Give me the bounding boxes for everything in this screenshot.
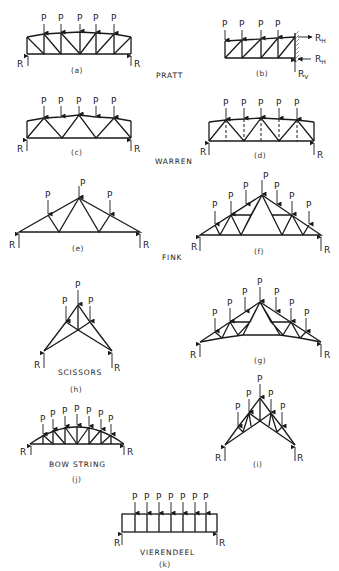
svg-text:R: R (200, 147, 206, 157)
svg-text:P: P (242, 287, 248, 297)
svg-text:P: P (258, 19, 264, 29)
svg-text:P: P (58, 96, 64, 106)
svg-text:P: P (274, 287, 280, 297)
svg-text:P: P (274, 181, 280, 191)
labels-b: P P P P RH RH RV (b) (222, 19, 326, 80)
svg-text:P: P (243, 181, 249, 191)
svg-text:P: P (289, 191, 295, 201)
truss-k-vierendeel (122, 502, 217, 545)
svg-text:P: P (77, 13, 83, 23)
svg-text:P: P (75, 280, 81, 290)
svg-text:RH: RH (315, 33, 326, 44)
svg-text:P: P (294, 98, 300, 108)
svg-text:P: P (93, 13, 99, 23)
truss-f-fink-compound (200, 180, 321, 251)
svg-text:P: P (107, 190, 113, 200)
svg-text:R: R (317, 150, 323, 160)
caption-e: (e) (72, 244, 84, 253)
svg-text:P: P (289, 298, 295, 308)
truss-a-pratt (27, 24, 131, 66)
svg-text:P: P (58, 13, 64, 23)
svg-text:P: P (257, 374, 263, 384)
svg-text:R: R (134, 59, 140, 69)
group-label-bowstring: BOW STRING (49, 460, 106, 469)
caption-a: (a) (71, 66, 83, 75)
group-label-vierendeel: VIERENDEEL (140, 548, 195, 557)
svg-text:P: P (93, 96, 99, 106)
svg-text:P: P (88, 296, 94, 306)
labels-h: P P P R R SCISSORS (h) (34, 280, 120, 394)
svg-text:P: P (246, 389, 252, 399)
group-label-scissors: SCISSORS (58, 368, 102, 377)
truss-c-warren (27, 106, 131, 151)
svg-text:R: R (34, 360, 40, 370)
caption-k: (k) (159, 560, 171, 569)
svg-text:P: P (263, 171, 269, 181)
svg-text:P: P (227, 298, 233, 308)
svg-text:P: P (50, 409, 56, 419)
svg-text:P: P (111, 96, 117, 106)
svg-text:RV: RV (298, 69, 309, 80)
labels-a: P P P P P R R (a) (17, 13, 140, 75)
group-label-fink: FINK (162, 253, 183, 262)
svg-text:R: R (215, 453, 221, 463)
svg-text:R: R (114, 363, 120, 373)
svg-text:P: P (203, 492, 209, 502)
svg-text:P: P (223, 98, 229, 108)
svg-text:P: P (280, 402, 286, 412)
svg-text:P: P (144, 492, 150, 502)
svg-text:P: P (268, 389, 274, 399)
caption-g: (g) (254, 356, 266, 365)
svg-text:P: P (76, 96, 82, 106)
truss-i-scissors-compound (225, 384, 295, 461)
svg-text:R: R (20, 447, 26, 457)
svg-text:P: P (239, 19, 245, 29)
caption-d: (d) (254, 151, 266, 160)
caption-j: (j) (72, 475, 81, 484)
svg-text:RH: RH (315, 54, 326, 65)
svg-text:P: P (306, 200, 312, 210)
svg-text:P: P (86, 406, 92, 416)
caption-b: (b) (256, 69, 268, 78)
truss-h-scissors (44, 290, 112, 368)
labels-k: P P P P P P P R R VIERENDEEL (k) (114, 492, 225, 569)
svg-text:P: P (304, 308, 310, 318)
caption-c: (c) (71, 148, 82, 157)
svg-text:P: P (80, 178, 86, 188)
truss-d-warren-verticals (209, 108, 314, 155)
caption-i: (i) (253, 460, 262, 469)
svg-text:P: P (108, 414, 114, 424)
caption-h: (h) (70, 385, 82, 394)
svg-text:P: P (41, 96, 47, 106)
group-label-pratt: PRATT (156, 71, 183, 80)
svg-text:R: R (143, 240, 149, 250)
svg-text:P: P (192, 492, 198, 502)
svg-text:P: P (258, 98, 264, 108)
svg-text:P: P (212, 200, 218, 210)
svg-text:R: R (134, 144, 140, 154)
svg-text:P: P (40, 414, 46, 424)
svg-text:R: R (191, 242, 197, 252)
svg-text:P: P (168, 492, 174, 502)
svg-text:R: R (324, 245, 330, 255)
svg-text:P: P (62, 406, 68, 416)
svg-text:P: P (235, 402, 241, 412)
svg-text:P: P (275, 19, 281, 29)
svg-text:P: P (228, 191, 234, 201)
group-label-warren: WARREN (155, 157, 193, 166)
svg-text:P: P (111, 13, 117, 23)
svg-text:P: P (45, 190, 51, 200)
svg-text:P: P (222, 19, 228, 29)
svg-text:R: R (114, 538, 120, 548)
svg-text:P: P (257, 277, 263, 287)
svg-text:R: R (219, 538, 225, 548)
svg-text:R: R (190, 350, 196, 360)
svg-text:R: R (127, 447, 133, 457)
svg-text:R: R (17, 59, 23, 69)
svg-text:R: R (17, 144, 23, 154)
svg-text:P: P (276, 98, 282, 108)
svg-text:R: R (297, 453, 303, 463)
svg-text:P: P (74, 404, 80, 414)
svg-text:P: P (98, 409, 104, 419)
svg-text:P: P (180, 492, 186, 502)
